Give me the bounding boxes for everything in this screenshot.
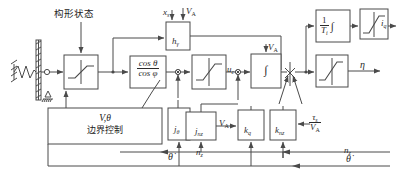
label-config-state: 构形状态 bbox=[54, 9, 94, 19]
label-k-q-sub: q bbox=[248, 130, 251, 136]
label-va1-base: V bbox=[186, 6, 192, 16]
label-nz-in-sub: z bbox=[201, 152, 203, 158]
label-nz-in-base: n bbox=[196, 147, 201, 157]
label-uc-base: u bbox=[227, 64, 232, 74]
label-signal-theta-dot-right: θ̇ bbox=[346, 154, 351, 164]
block-diagram-figure: 构形状态 V,θ 边界控制 cos θ cos φ hγ xs VA VA uc… bbox=[0, 0, 397, 179]
label-boundary-control-line2: 边界控制 bbox=[87, 125, 123, 135]
label-gain-integral-sign: ∫ bbox=[329, 20, 334, 32]
label-h-gamma-base: h bbox=[172, 36, 177, 46]
label-signal-va-1: VA bbox=[186, 1, 196, 17]
block-k-q bbox=[238, 110, 264, 140]
label-k-q: kq bbox=[244, 120, 251, 136]
sum-junction-input bbox=[44, 69, 49, 74]
label-signal-xs: xs bbox=[163, 2, 169, 18]
label-boundary-control: V,θ 边界控制 bbox=[48, 113, 162, 136]
label-signal-uc: uc bbox=[227, 59, 234, 75]
label-cos-ratio: cos θ cos φ bbox=[131, 59, 165, 79]
label-signal-va-3: VA bbox=[219, 113, 229, 129]
label-va1-sub: A bbox=[192, 11, 196, 17]
label-signal-tau-over-va: τs VA bbox=[309, 113, 321, 133]
label-signal-iq: iq bbox=[381, 13, 387, 29]
label-j-nz: jnz bbox=[195, 121, 203, 137]
sum-junction-multi bbox=[285, 62, 295, 86]
label-cos-ratio-den: cos φ bbox=[137, 69, 158, 78]
label-j-nz-sub: nz bbox=[198, 131, 203, 137]
label-gain-integral: 1 Ti ∫ bbox=[320, 16, 334, 36]
label-j-theta: jθ bbox=[174, 119, 179, 135]
label-gain-den: Ti bbox=[320, 26, 329, 35]
label-va2-sub: A bbox=[274, 47, 278, 53]
label-signal-va-2: VA bbox=[268, 37, 278, 53]
spring-support-icon bbox=[11, 40, 41, 100]
label-xs-sub: s bbox=[167, 12, 169, 18]
label-signal-theta-dot-left: θ̇ bbox=[168, 152, 173, 162]
label-boundary-control-line1: V,θ bbox=[99, 113, 111, 123]
label-tau-den: VA bbox=[309, 123, 321, 132]
label-va3-base: V bbox=[219, 118, 225, 128]
label-iq-sub: q bbox=[384, 23, 387, 29]
label-k-nz-sub: nz bbox=[279, 130, 284, 136]
label-uc-sub: c bbox=[232, 69, 235, 75]
label-j-theta-sub: θ bbox=[177, 129, 180, 135]
label-va2-base: V bbox=[268, 42, 274, 52]
label-signal-nz-in: nz bbox=[196, 142, 203, 158]
label-h-gamma: hγ bbox=[172, 31, 179, 47]
label-k-nz: knz bbox=[275, 120, 284, 136]
label-h-gamma-sub: γ bbox=[177, 41, 179, 47]
label-va3-sub: A bbox=[225, 123, 229, 129]
label-signal-eta: η bbox=[360, 60, 365, 70]
label-integrator: ∫ bbox=[251, 64, 281, 76]
ground-symbol-icon bbox=[42, 91, 53, 102]
